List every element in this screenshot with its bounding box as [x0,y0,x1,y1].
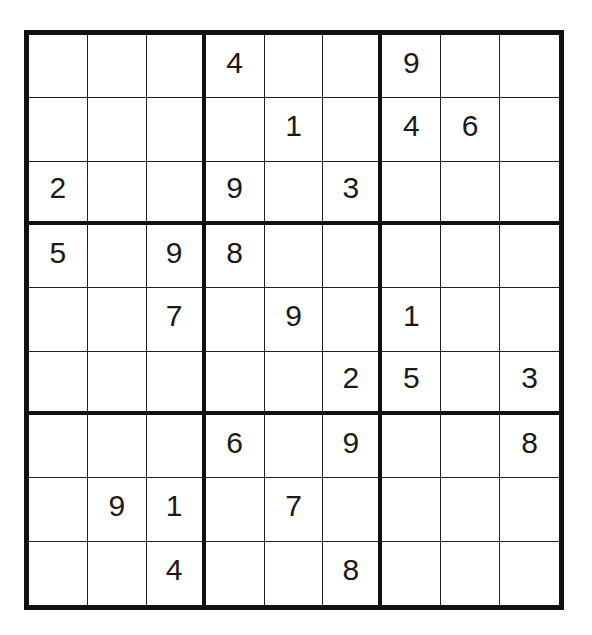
empty-cell-r9c9[interactable] [500,542,559,605]
empty-cell-r4c7[interactable] [382,225,441,288]
empty-cell-r1c9[interactable] [500,35,559,98]
given-cell-r6c9[interactable]: 3 [500,352,559,415]
empty-cell-r1c2[interactable] [88,35,147,98]
empty-cell-r4c9[interactable] [500,225,559,288]
empty-cell-r1c8[interactable] [441,35,500,98]
empty-cell-r8c8[interactable] [441,478,500,541]
empty-cell-r7c8[interactable] [441,415,500,478]
empty-cell-r1c6[interactable] [323,35,382,98]
empty-cell-r7c5[interactable] [265,415,324,478]
empty-cell-r2c2[interactable] [88,98,147,161]
empty-cell-r6c8[interactable] [441,352,500,415]
empty-cell-r3c5[interactable] [265,162,324,225]
empty-cell-r2c9[interactable] [500,98,559,161]
given-cell-r9c3[interactable]: 4 [147,542,206,605]
given-cell-r8c5[interactable]: 7 [265,478,324,541]
given-cell-r5c5[interactable]: 9 [265,288,324,351]
empty-cell-r6c4[interactable] [206,352,265,415]
given-cell-r5c3[interactable]: 7 [147,288,206,351]
given-cell-r4c4[interactable]: 8 [206,225,265,288]
empty-cell-r9c8[interactable] [441,542,500,605]
given-cell-r7c6[interactable]: 9 [323,415,382,478]
empty-cell-r1c1[interactable] [29,35,88,98]
empty-cell-r6c5[interactable] [265,352,324,415]
empty-cell-r2c1[interactable] [29,98,88,161]
empty-cell-r9c7[interactable] [382,542,441,605]
empty-cell-r9c5[interactable] [265,542,324,605]
empty-cell-r1c3[interactable] [147,35,206,98]
empty-cell-r8c9[interactable] [500,478,559,541]
given-cell-r1c4[interactable]: 4 [206,35,265,98]
empty-cell-r7c7[interactable] [382,415,441,478]
empty-cell-r1c5[interactable] [265,35,324,98]
given-cell-r7c4[interactable]: 6 [206,415,265,478]
empty-cell-r5c9[interactable] [500,288,559,351]
empty-cell-r4c8[interactable] [441,225,500,288]
given-cell-r2c5[interactable]: 1 [265,98,324,161]
sudoku-board: 4914629359879125369891748 [24,30,564,610]
given-cell-r8c2[interactable]: 9 [88,478,147,541]
empty-cell-r7c3[interactable] [147,415,206,478]
empty-cell-r4c5[interactable] [265,225,324,288]
empty-cell-r2c4[interactable] [206,98,265,161]
empty-cell-r9c2[interactable] [88,542,147,605]
given-cell-r5c7[interactable]: 1 [382,288,441,351]
empty-cell-r4c6[interactable] [323,225,382,288]
empty-cell-r2c3[interactable] [147,98,206,161]
empty-cell-r5c2[interactable] [88,288,147,351]
given-cell-r4c1[interactable]: 5 [29,225,88,288]
empty-cell-r5c4[interactable] [206,288,265,351]
empty-cell-r8c4[interactable] [206,478,265,541]
empty-cell-r8c6[interactable] [323,478,382,541]
empty-cell-r3c7[interactable] [382,162,441,225]
empty-cell-r7c2[interactable] [88,415,147,478]
given-cell-r2c8[interactable]: 6 [441,98,500,161]
empty-cell-r5c8[interactable] [441,288,500,351]
empty-cell-r6c3[interactable] [147,352,206,415]
empty-cell-r4c2[interactable] [88,225,147,288]
empty-cell-r5c6[interactable] [323,288,382,351]
empty-cell-r3c3[interactable] [147,162,206,225]
empty-cell-r9c1[interactable] [29,542,88,605]
given-cell-r3c6[interactable]: 3 [323,162,382,225]
empty-cell-r5c1[interactable] [29,288,88,351]
given-cell-r1c7[interactable]: 9 [382,35,441,98]
given-cell-r3c4[interactable]: 9 [206,162,265,225]
empty-cell-r7c1[interactable] [29,415,88,478]
empty-cell-r9c4[interactable] [206,542,265,605]
given-cell-r2c7[interactable]: 4 [382,98,441,161]
given-cell-r6c7[interactable]: 5 [382,352,441,415]
given-cell-r8c3[interactable]: 1 [147,478,206,541]
empty-cell-r6c1[interactable] [29,352,88,415]
empty-cell-r6c2[interactable] [88,352,147,415]
empty-cell-r8c7[interactable] [382,478,441,541]
given-cell-r7c9[interactable]: 8 [500,415,559,478]
given-cell-r6c6[interactable]: 2 [323,352,382,415]
empty-cell-r3c9[interactable] [500,162,559,225]
empty-cell-r3c2[interactable] [88,162,147,225]
given-cell-r4c3[interactable]: 9 [147,225,206,288]
given-cell-r9c6[interactable]: 8 [323,542,382,605]
empty-cell-r3c8[interactable] [441,162,500,225]
empty-cell-r2c6[interactable] [323,98,382,161]
given-cell-r3c1[interactable]: 2 [29,162,88,225]
empty-cell-r8c1[interactable] [29,478,88,541]
